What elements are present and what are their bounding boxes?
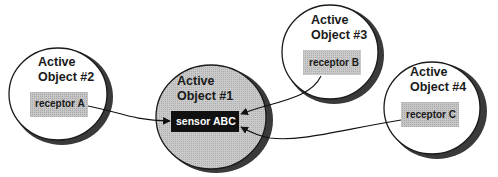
svg-text:Object #1: Object #1: [177, 89, 233, 103]
active-objects-diagram: Active Object #2 receptor A Active Objec…: [0, 0, 498, 177]
svg-text:Active: Active: [410, 65, 448, 79]
svg-text:Active: Active: [177, 74, 215, 88]
active-object-2: Active Object #2 receptor A: [9, 48, 113, 145]
object-3-title-line2: Object #3: [311, 28, 367, 42]
active-object-1: Active Object #1 sensor ABC: [156, 65, 273, 173]
object-4-title-line2: Object #4: [410, 80, 466, 94]
object-1-title-line1: Active: [177, 74, 215, 88]
svg-text:Object #4: Object #4: [410, 80, 466, 94]
active-object-4: Active Object #4 receptor C: [384, 62, 487, 159]
receptor-b-label: receptor B: [309, 57, 359, 68]
receptor-a-label: receptor A: [35, 98, 85, 109]
svg-text:Active: Active: [38, 55, 76, 69]
active-object-3: Active Object #3 receptor B: [282, 5, 384, 104]
svg-text:Active: Active: [311, 13, 349, 27]
object-2-title-line1: Active: [38, 55, 76, 69]
object-2-title-line2: Object #2: [38, 70, 94, 84]
object-4-title-line1: Active: [410, 65, 448, 79]
sensor-abc-label: sensor ABC: [176, 115, 236, 127]
receptor-c-label: receptor C: [406, 109, 456, 120]
object-1-title-line2: Object #1: [177, 89, 233, 103]
svg-text:Object #3: Object #3: [311, 28, 367, 42]
svg-text:Object #2: Object #2: [38, 70, 94, 84]
object-3-title-line1: Active: [311, 13, 349, 27]
